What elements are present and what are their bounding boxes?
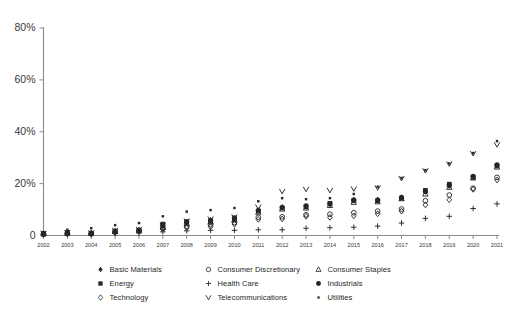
marker-filled-circle	[184, 219, 189, 224]
legend-item-label: Consumer Discretionary	[218, 265, 301, 274]
marker-filled-diamond	[98, 266, 102, 271]
x-tick-label: 2008	[180, 242, 192, 248]
marker-filled-circle	[136, 227, 141, 232]
marker-small-dot	[66, 229, 68, 231]
marker-small-dot	[114, 224, 116, 226]
legend-item-consumer-staples[interactable]: Consumer Staples	[314, 262, 418, 276]
vee-icon	[204, 293, 213, 302]
series-health-care	[41, 201, 500, 237]
series-consumer-discretionary	[41, 175, 499, 237]
marker-plus	[375, 223, 381, 229]
data-points-layer	[41, 140, 500, 237]
legend-item-utilities[interactable]: Utilities	[314, 290, 418, 304]
marker-filled-circle	[375, 198, 380, 203]
marker-open-diamond	[471, 186, 476, 192]
y-tick-label: 40%	[14, 125, 35, 137]
series-utilities	[42, 140, 498, 234]
marker-small-dot	[233, 207, 235, 209]
marker-small-dot	[257, 200, 259, 202]
series-industrials	[41, 162, 500, 236]
marker-filled-circle	[303, 203, 308, 208]
legend-item-label: Energy	[110, 279, 134, 288]
marker-plus	[205, 280, 210, 285]
marker-filled-circle	[256, 208, 261, 213]
legend-item-technology[interactable]: Technology	[96, 290, 204, 304]
legend-item-industrials[interactable]: Industrials	[314, 276, 418, 290]
open-circle-icon	[204, 265, 213, 274]
x-tick-label: 2003	[61, 242, 73, 248]
x-tick-label: 2005	[109, 242, 121, 248]
series-telecommunications	[41, 142, 500, 235]
legend-item-energy[interactable]: Energy	[96, 276, 204, 290]
legend-item-consumer-discretionary[interactable]: Consumer Discretionary	[204, 262, 314, 276]
scatter-chart: 020%40%60%80%200220032004200520062007200…	[0, 0, 513, 314]
marker-filled-circle	[447, 183, 452, 188]
filled-square-icon	[96, 279, 105, 288]
marker-filled-circle	[423, 189, 428, 194]
x-tick-label: 2020	[467, 242, 479, 248]
marker-filled-circle	[471, 174, 476, 179]
legend-item-telecommunications[interactable]: Telecommunications	[204, 290, 314, 304]
x-tick-label: 2010	[228, 242, 240, 248]
x-tick-label: 2015	[348, 242, 360, 248]
legend-item-basic-materials[interactable]: Basic Materials	[96, 262, 204, 276]
marker-plus	[208, 228, 214, 234]
marker-vee	[494, 142, 500, 147]
plus-icon	[204, 279, 213, 288]
open-diamond-icon	[96, 293, 105, 302]
marker-plus	[447, 214, 453, 220]
legend-item-label: Consumer Staples	[328, 265, 391, 274]
plot-area: 020%40%60%80%200220032004200520062007200…	[0, 0, 513, 258]
legend-item-label: Health Care	[218, 279, 259, 288]
marker-small-dot	[376, 186, 378, 188]
marker-small-dot	[472, 152, 474, 154]
legend-grid: Basic MaterialsConsumer DiscretionaryCon…	[96, 262, 418, 304]
marker-filled-circle	[65, 230, 70, 235]
marker-small-dot	[90, 227, 92, 229]
triangle-icon	[314, 265, 323, 274]
marker-plus	[279, 227, 285, 233]
marker-open-circle	[280, 214, 285, 219]
marker-plus	[351, 224, 357, 230]
x-tick-label: 2007	[157, 242, 169, 248]
marker-small-dot	[281, 197, 283, 199]
legend-item-label: Telecommunications	[218, 293, 288, 302]
x-tick-label: 2013	[300, 242, 312, 248]
marker-small-dot	[185, 210, 187, 212]
legend-item-label: Industrials	[328, 279, 363, 288]
marker-small-dot	[329, 197, 331, 199]
marker-plus	[232, 228, 238, 234]
marker-filled-circle	[112, 228, 117, 233]
marker-small-dot	[424, 169, 426, 171]
marker-filled-circle	[316, 281, 321, 286]
x-tick-label: 2012	[276, 242, 288, 248]
marker-small-dot	[162, 215, 164, 217]
chart-canvas: 020%40%60%80%200220032004200520062007200…	[0, 0, 513, 258]
marker-open-circle	[256, 215, 261, 220]
marker-filled-circle	[494, 162, 499, 167]
legend-item-health-care[interactable]: Health Care	[204, 276, 314, 290]
x-tick-label: 2018	[419, 242, 431, 248]
marker-triangle	[316, 266, 321, 271]
marker-small-dot	[317, 296, 319, 298]
marker-plus	[303, 225, 309, 231]
marker-filled-circle	[160, 223, 165, 228]
legend-item-label: Utilities	[328, 293, 353, 302]
legend-item-label: Basic Materials	[110, 265, 162, 274]
x-tick-label: 2011	[252, 242, 264, 248]
marker-filled-circle	[399, 195, 404, 200]
x-tick-label: 2021	[491, 242, 503, 248]
marker-vee	[327, 188, 333, 193]
marker-filled-circle	[232, 215, 237, 220]
marker-small-dot	[496, 140, 498, 142]
marker-vee	[279, 189, 285, 194]
x-tick-label: 2016	[371, 242, 383, 248]
marker-plus	[399, 220, 405, 226]
marker-open-circle	[206, 267, 210, 271]
series-consumer-staples	[41, 164, 500, 236]
x-tick-label: 2019	[443, 242, 455, 248]
y-tick-label: 20%	[14, 177, 35, 189]
marker-plus	[423, 216, 429, 222]
filled-diamond-icon	[96, 265, 105, 274]
small-dot-icon	[314, 293, 323, 302]
